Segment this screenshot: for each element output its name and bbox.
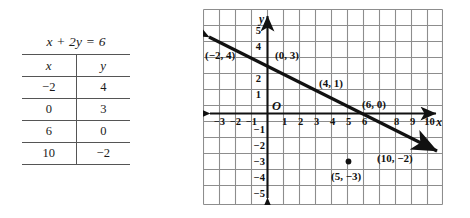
y-tick-1: 1 bbox=[256, 89, 261, 100]
y-tick--4: −4 bbox=[254, 172, 266, 183]
cell-y: 0 bbox=[76, 121, 130, 143]
x-tick-10: 10 bbox=[424, 116, 435, 127]
value-table-panel: x + 2y = 6 x y −2 4 0 3 6 0 bbox=[22, 34, 130, 165]
x-tick-5: 5 bbox=[346, 116, 351, 127]
cell-y: −2 bbox=[76, 143, 130, 165]
x-tick-4: 4 bbox=[330, 116, 336, 127]
graph-background bbox=[203, 9, 443, 205]
point-label-6-0: (6, 0) bbox=[362, 98, 386, 111]
cell-x: 10 bbox=[22, 143, 76, 165]
x-tick--2: −2 bbox=[230, 116, 241, 127]
cell-x: −2 bbox=[22, 77, 76, 99]
x-tick-8: 8 bbox=[394, 116, 399, 127]
data-point-5--3 bbox=[346, 159, 352, 165]
table-row: −2 4 bbox=[22, 77, 130, 99]
origin-label: O bbox=[272, 99, 281, 113]
column-header-y: y bbox=[76, 55, 130, 77]
x-tick--3: −3 bbox=[214, 116, 225, 127]
point-label-0-3: (0, 3) bbox=[275, 49, 299, 62]
y-tick--3: −3 bbox=[254, 156, 265, 167]
coordinate-graph: −3 −2 −1 1 2 3 4 5 6 8 9 10 5 4 2 1 −1 −… bbox=[203, 9, 443, 205]
x-tick-9: 9 bbox=[410, 116, 415, 127]
y-tick--1: −1 bbox=[254, 124, 265, 135]
y-tick--2: −2 bbox=[254, 140, 265, 151]
y-tick-5: 5 bbox=[256, 25, 261, 36]
x-axis-letter: x bbox=[435, 116, 442, 128]
cell-x: 6 bbox=[22, 121, 76, 143]
x-tick-3: 3 bbox=[314, 116, 319, 127]
x-tick-1: 1 bbox=[282, 116, 287, 127]
cell-y: 4 bbox=[76, 77, 130, 99]
cell-x: 0 bbox=[22, 99, 76, 121]
x-tick-2: 2 bbox=[298, 116, 303, 127]
value-table: x y −2 4 0 3 6 0 10 −2 bbox=[22, 54, 130, 165]
equation-label: x + 2y = 6 bbox=[22, 34, 130, 54]
table-row: 10 −2 bbox=[22, 143, 130, 165]
x-tick-6: 6 bbox=[362, 116, 367, 127]
table-row: 6 0 bbox=[22, 121, 130, 143]
column-header-x: x bbox=[22, 55, 76, 77]
y-tick-2: 2 bbox=[256, 73, 261, 84]
y-tick--5: −5 bbox=[254, 188, 265, 199]
y-tick-4: 4 bbox=[256, 41, 262, 52]
table-header-row: x y bbox=[22, 55, 130, 77]
point-label-10--2: (10, −2) bbox=[377, 152, 413, 165]
point-label-5--3: (5, −3) bbox=[331, 170, 361, 183]
y-axis-letter: y bbox=[257, 13, 265, 26]
table-row: 0 3 bbox=[22, 99, 130, 121]
cell-y: 3 bbox=[76, 99, 130, 121]
point-label-4-1: (4, 1) bbox=[319, 77, 343, 90]
point-label-neg2-4: (−2, 4) bbox=[205, 49, 235, 62]
figure-root: x + 2y = 6 x y −2 4 0 3 6 0 bbox=[0, 0, 470, 218]
